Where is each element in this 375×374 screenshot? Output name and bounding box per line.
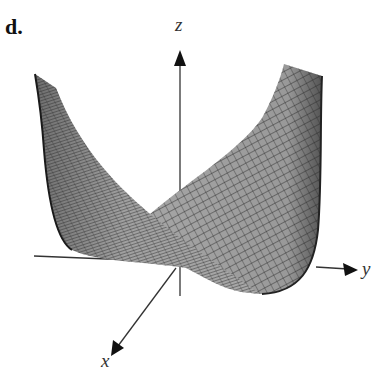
z-axis-arrowhead xyxy=(174,50,186,66)
y-axis-arrowhead xyxy=(343,263,358,276)
plot-canvas xyxy=(0,0,375,374)
surface-plot-figure: d. xyxy=(0,0,375,374)
x-axis-label: x xyxy=(101,350,109,372)
x-axis-arrowhead xyxy=(111,340,124,356)
y-axis-front xyxy=(316,267,348,269)
x-axis xyxy=(118,268,176,346)
z-axis-label: z xyxy=(175,14,182,36)
y-axis-label: y xyxy=(362,258,370,280)
